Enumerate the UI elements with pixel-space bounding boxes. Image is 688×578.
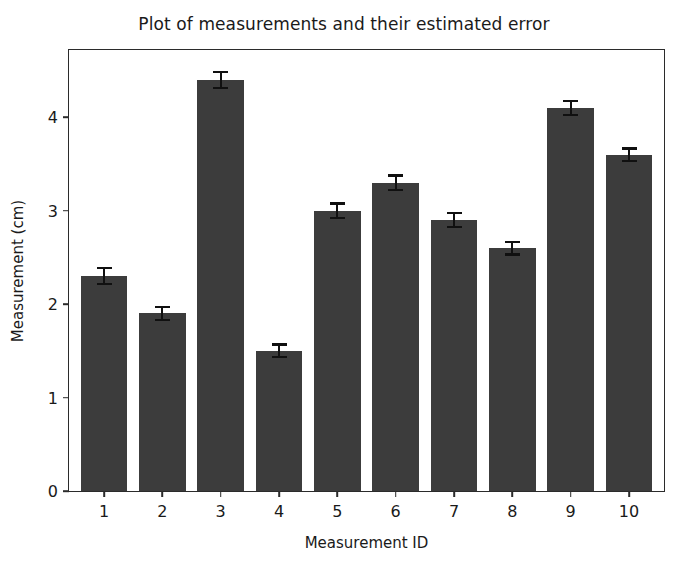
error-bar xyxy=(619,147,639,162)
x-axis-tick-label: 1 xyxy=(99,502,109,521)
y-axis-tick-label: 0 xyxy=(48,482,58,501)
error-bar-cap-lower xyxy=(505,253,520,255)
y-axis-label: Measurement (cm) xyxy=(8,49,28,492)
x-axis-tick-label: 7 xyxy=(449,502,459,521)
error-bar xyxy=(561,100,581,117)
error-bar-cap-upper xyxy=(447,212,462,214)
x-axis-tick-mark xyxy=(453,491,455,497)
y-axis-tick-mark xyxy=(63,116,69,118)
y-axis-tick-mark xyxy=(63,397,69,399)
error-bar-cap-upper xyxy=(505,241,520,243)
y-axis-tick-mark xyxy=(63,490,69,492)
x-axis-tick-label: 5 xyxy=(332,502,342,521)
error-bar-cap-lower xyxy=(563,114,578,116)
error-bar xyxy=(94,267,114,286)
x-axis-tick-label: 4 xyxy=(274,502,284,521)
x-axis-tick-label: 10 xyxy=(619,502,639,521)
error-bar-cap-upper xyxy=(388,174,403,176)
error-bar-cap-lower xyxy=(330,217,345,219)
x-axis-tick-mark xyxy=(220,491,222,497)
bar xyxy=(81,276,128,491)
error-bar xyxy=(152,306,172,321)
bar xyxy=(139,313,186,491)
error-bar-cap-upper xyxy=(330,202,345,204)
error-bar-cap-lower xyxy=(272,356,287,358)
y-axis-tick-mark xyxy=(63,303,69,305)
x-axis-tick-mark xyxy=(103,491,105,497)
x-axis-tick-mark xyxy=(512,491,514,497)
y-axis-tick-label: 4 xyxy=(48,108,58,127)
plot-area: 0123412345678910 xyxy=(69,50,664,491)
x-axis-tick-mark xyxy=(628,491,630,497)
error-bar-cap-lower xyxy=(447,226,462,228)
x-axis-tick-label: 6 xyxy=(391,502,401,521)
bar xyxy=(256,351,303,491)
x-axis-tick-mark xyxy=(395,491,397,497)
error-bar xyxy=(444,212,464,229)
chart-title: Plot of measurements and their estimated… xyxy=(0,14,688,34)
error-bar-cap-lower xyxy=(97,283,112,285)
bar xyxy=(606,155,653,491)
error-bar xyxy=(502,241,522,256)
y-axis-tick-label: 1 xyxy=(48,388,58,407)
error-bar-cap-lower xyxy=(213,87,228,89)
error-bar xyxy=(386,174,406,191)
y-axis-tick-label: 2 xyxy=(48,295,58,314)
error-bar-cap-upper xyxy=(97,267,112,269)
error-bar-cap-upper xyxy=(213,71,228,73)
error-bar xyxy=(269,343,289,358)
x-axis-tick-label: 2 xyxy=(157,502,167,521)
y-axis-tick-mark xyxy=(63,210,69,212)
bar xyxy=(372,183,419,491)
bar xyxy=(489,248,536,491)
x-axis-tick-mark xyxy=(570,491,572,497)
y-axis-label-text: Measurement (cm) xyxy=(9,199,27,341)
error-bar-cap-upper xyxy=(563,100,578,102)
error-bar-cap-upper xyxy=(622,147,637,149)
error-bar-cap-lower xyxy=(388,189,403,191)
x-axis-tick-mark xyxy=(162,491,164,497)
x-axis-label: Measurement ID xyxy=(68,534,665,552)
error-bar xyxy=(327,202,347,219)
x-axis-tick-label: 3 xyxy=(216,502,226,521)
plot-frame: 0123412345678910 xyxy=(68,49,665,492)
x-axis-tick-label: 9 xyxy=(566,502,576,521)
error-bar-cap-upper xyxy=(272,343,287,345)
error-bar-cap-lower xyxy=(622,160,637,162)
x-axis-tick-mark xyxy=(337,491,339,497)
x-axis-tick-mark xyxy=(278,491,280,497)
error-bar-cap-lower xyxy=(155,319,170,321)
error-bar-cap-upper xyxy=(155,306,170,308)
figure: Plot of measurements and their estimated… xyxy=(0,0,688,578)
bar xyxy=(197,80,244,491)
y-axis-tick-label: 3 xyxy=(48,201,58,220)
bar xyxy=(431,220,478,491)
error-bar xyxy=(211,71,231,90)
bar xyxy=(314,211,361,491)
x-axis-tick-label: 8 xyxy=(507,502,517,521)
bar xyxy=(547,108,594,491)
